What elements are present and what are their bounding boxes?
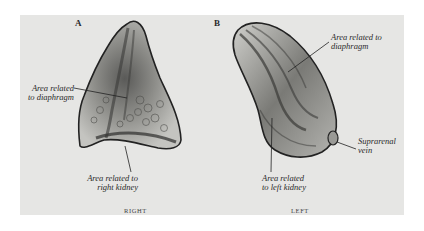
right-adrenal-gland — [79, 21, 181, 148]
label-suprarenal-vein: Suprarenal vein — [358, 137, 396, 155]
label-left-kidney-area: Area related to left kidney — [262, 174, 306, 192]
left-adrenal-gland — [233, 23, 338, 157]
label-left-diaphragm-area: Area related to diaphragm — [331, 33, 382, 51]
side-label-right: RIGHT — [124, 207, 147, 214]
label-right-kidney-area: Area related to right kidney — [76, 174, 138, 192]
label-right-diaphragm-area: Area related to diaphragm — [22, 84, 74, 102]
side-label-left: LEFT — [291, 207, 309, 214]
suprarenal-vein-stub — [328, 131, 338, 145]
panel-letter-a: A — [75, 18, 82, 28]
panel-letter-b: B — [214, 18, 220, 28]
